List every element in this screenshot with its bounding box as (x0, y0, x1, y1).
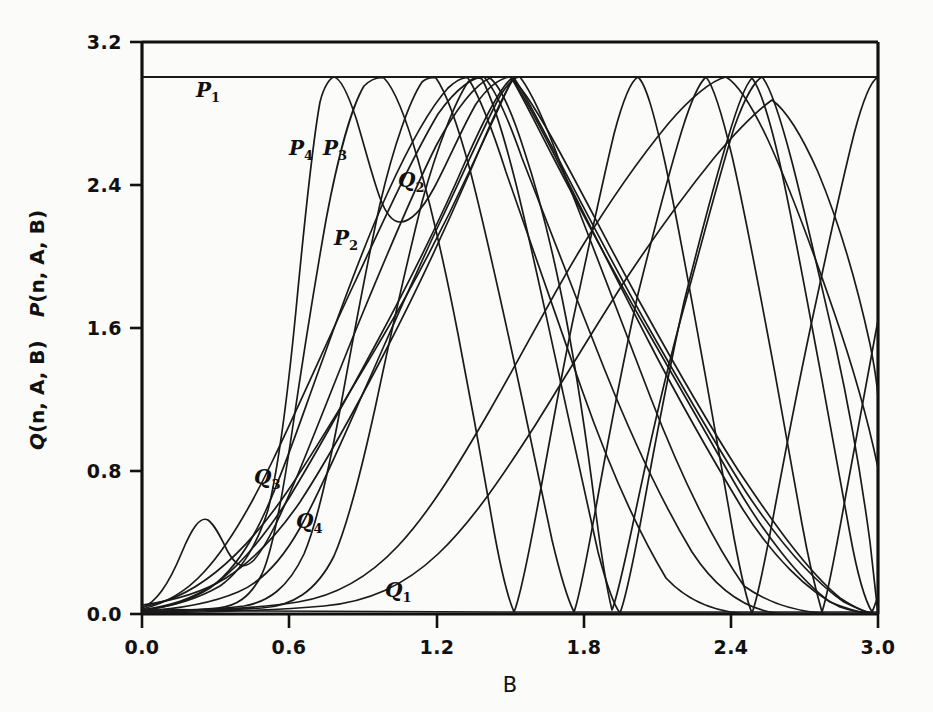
y-axis-title-q: Q (25, 433, 49, 450)
ytick-label-2.4: 2.4 (87, 174, 122, 196)
y-axis-title-p: P (25, 302, 49, 317)
ytick-label-0.8: 0.8 (87, 460, 122, 482)
xtick-label-3.0: 3.0 (860, 636, 895, 658)
xtick-label-2.4: 2.4 (713, 636, 748, 658)
y-axis-title-q-args: (n, A, B) (25, 340, 49, 433)
xtick-label-0.6: 0.6 (271, 636, 306, 658)
x-axis-ticks (142, 614, 878, 628)
y-axis-tick-labels: 3.2 2.4 1.6 0.8 0.0 (87, 31, 122, 625)
curve-label-Q1: Q1 (385, 578, 411, 605)
y-axis-title-p-args: (n, A, B) (25, 210, 49, 303)
xtick-label-1.8: 1.8 (566, 636, 601, 658)
ytick-label-0.0: 0.0 (87, 603, 122, 625)
xtick-label-1.2: 1.2 (419, 636, 454, 658)
x-axis-tick-labels: 0.0 0.6 1.2 1.8 2.4 3.0 (124, 636, 895, 658)
curve-label-P1: P1 (195, 78, 220, 105)
ytick-label-3.2: 3.2 (87, 31, 122, 53)
y-axis-title: Q(n, A, B) P(n, A, B) (25, 210, 49, 450)
curves-group (142, 77, 878, 614)
x-axis-title: B (503, 673, 517, 697)
ytick-label-1.6: 1.6 (87, 317, 122, 339)
curve-label-Q4: Q4 (296, 509, 322, 536)
xtick-label-0.0: 0.0 (124, 636, 159, 658)
curve-Q5 (142, 77, 878, 612)
svg-text:Q(n, A, B) P(n, A, B): Q(n, A, B) P(n, A, B) (25, 210, 49, 450)
curve-label-P4: P4 (288, 136, 313, 163)
chart-figure: 3.2 2.4 1.6 0.8 0.0 0.0 0.6 1.2 1.8 2.4 … (0, 0, 933, 712)
plot-svg: 3.2 2.4 1.6 0.8 0.0 0.0 0.6 1.2 1.8 2.4 … (0, 0, 933, 712)
curve-label-P2: P2 (333, 226, 358, 253)
y-axis-ticks (130, 42, 142, 614)
